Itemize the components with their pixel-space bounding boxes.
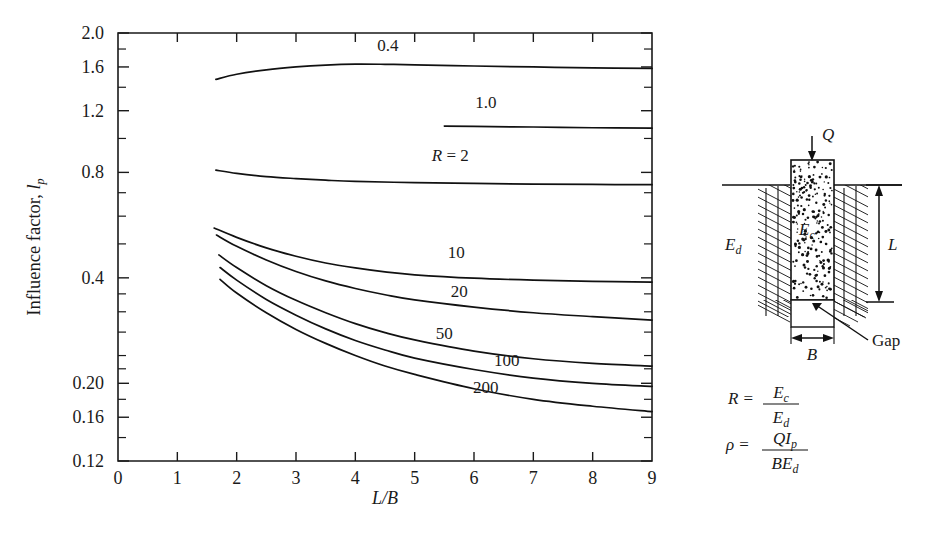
y-tick-label: 0.12	[73, 451, 105, 471]
stipple-dot	[819, 220, 822, 223]
stipple-dot	[799, 179, 802, 182]
stipple-dot	[809, 273, 812, 276]
formula-2-numerator: QIp	[773, 429, 797, 451]
curve-label: 100	[494, 351, 520, 370]
stipple-dot	[821, 283, 824, 286]
stipple-dot	[829, 232, 831, 234]
stipple-dot	[827, 214, 829, 216]
stipple-dot	[810, 287, 813, 290]
stipple-dot	[816, 255, 819, 258]
stipple-dot	[800, 169, 802, 171]
stipple-dot	[824, 230, 827, 233]
x-tick-label: 6	[470, 468, 479, 488]
stipple-dot	[792, 187, 795, 190]
stipple-dot	[816, 193, 818, 195]
stipple-dot	[800, 205, 802, 207]
stipple-dot	[807, 268, 809, 270]
stipple-dot	[794, 265, 796, 267]
x-axis-tick-labels: 0123456789	[114, 468, 657, 488]
stipple-dot	[798, 246, 801, 249]
x-axis-title-denominator: B	[387, 488, 398, 508]
stipple-dot	[792, 261, 794, 263]
length-dimension: L	[866, 185, 902, 302]
stipple-dot	[815, 216, 817, 218]
x-axis-title-numerator: L	[371, 488, 382, 508]
stipple-dot	[823, 263, 825, 265]
stipple-dot	[818, 255, 820, 257]
x-axis-title: L/B	[371, 488, 398, 508]
stipple-dot	[822, 295, 825, 298]
stipple-dot	[806, 189, 808, 191]
formula-1-lhs: R=	[727, 389, 753, 408]
stipple-dot	[808, 194, 811, 197]
x-tick-label: 8	[588, 468, 597, 488]
stipple-dot	[811, 181, 813, 183]
stipple-dot	[828, 271, 831, 274]
stipple-dot	[822, 266, 825, 269]
stipple-dot	[793, 287, 796, 290]
plot-axes	[118, 33, 652, 461]
stipple-dot	[796, 296, 799, 299]
stipple-dot	[810, 187, 812, 189]
curve-label: 20	[451, 282, 468, 301]
curve-label: 10	[448, 243, 465, 262]
stipple-dot	[829, 250, 832, 253]
x-tick-label: 4	[351, 468, 360, 488]
stipple-dot	[794, 283, 796, 285]
stipple-dot	[802, 263, 805, 266]
stipple-dot	[792, 199, 795, 202]
stipple-dot	[793, 216, 796, 219]
stipple-dot	[792, 184, 794, 186]
stipple-dot	[802, 192, 804, 194]
width-dimension: B	[791, 327, 834, 364]
stipple-dot	[831, 169, 833, 171]
stipple-dot	[819, 260, 820, 261]
stipple-dot	[802, 290, 804, 292]
figure-container: 2.01.61.20.80.40.200.160.12 0123456789 0…	[0, 0, 947, 534]
stipple-dot	[821, 251, 823, 253]
stipple-dot	[824, 181, 825, 182]
length-label: L	[887, 235, 897, 254]
stipple-dot	[824, 274, 827, 277]
formula-settlement: ρ= QIp BEd	[725, 429, 808, 476]
stipple-dot	[795, 259, 798, 262]
y-axis-ticks	[118, 33, 652, 461]
stipple-dot	[808, 175, 811, 178]
stipple-dot	[831, 247, 833, 249]
stipple-dot	[807, 247, 810, 250]
stipple-dot	[803, 208, 806, 211]
stipple-dot	[798, 166, 800, 168]
x-tick-label: 3	[292, 468, 301, 488]
stipple-dot	[819, 281, 821, 283]
x-tick-label: 0	[114, 468, 123, 488]
stipple-dot	[822, 212, 824, 214]
stipple-dot	[806, 260, 809, 263]
stipple-dot	[796, 191, 798, 193]
stipple-dot	[827, 259, 829, 261]
stipple-dot	[805, 184, 807, 186]
stipple-dot	[819, 241, 822, 244]
formula-modulus-ratio: R= Ec Ed	[727, 383, 799, 430]
stipple-dot	[817, 285, 820, 288]
stipple-dot	[807, 216, 810, 219]
stipple-dot	[813, 174, 815, 176]
stipple-dot	[813, 269, 815, 271]
data-curves	[214, 64, 652, 412]
stipple-dot	[818, 231, 820, 233]
y-tick-label: 0.8	[82, 162, 105, 182]
stipple-dot	[816, 222, 818, 224]
stipple-dot	[796, 221, 798, 223]
stipple-dot	[807, 251, 809, 253]
stipple-dot	[827, 182, 829, 184]
formula-1-denominator: Ed	[772, 408, 790, 430]
stipple-dot	[798, 283, 800, 285]
stipple-dot	[818, 288, 820, 290]
stipple-dot	[804, 251, 806, 253]
load-label: Q	[822, 125, 834, 144]
stipple-dot	[828, 195, 830, 197]
stipple-dot	[828, 288, 830, 290]
stipple-dot	[806, 182, 809, 185]
stipple-dot	[808, 167, 810, 169]
stipple-dot	[810, 295, 812, 297]
stipple-dot	[808, 205, 810, 207]
